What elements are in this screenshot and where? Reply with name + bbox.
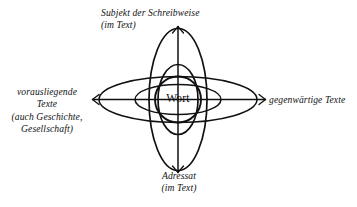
label-bottom-line2: (im Text) bbox=[144, 182, 214, 194]
label-vorausliegende-texte: vorausliegende Texte (auch Geschichte, G… bbox=[0, 86, 94, 135]
label-subjekt-der-schreibweise: Subjekt der Schreibweise (im Text) bbox=[101, 7, 200, 32]
label-right-line1: gegenwärtige Texte bbox=[269, 94, 345, 106]
label-left-line2: Texte bbox=[0, 98, 94, 110]
label-top-line1: Subjekt der Schreibweise bbox=[101, 7, 200, 19]
label-bottom-line1: Adressat bbox=[144, 170, 214, 182]
label-left-line3: (auch Geschichte, bbox=[0, 111, 94, 123]
diagram-canvas: Wort Subjekt der Schreibweise (im Text) … bbox=[0, 0, 357, 207]
label-left-line4: Gesellschaft) bbox=[0, 123, 94, 135]
label-top-line2: (im Text) bbox=[101, 19, 200, 31]
label-gegenwaertige-texte: gegenwärtige Texte bbox=[269, 94, 345, 106]
label-left-line1: vorausliegende bbox=[0, 86, 94, 98]
label-adressat: Adressat (im Text) bbox=[144, 170, 214, 195]
center-word-label: Wort bbox=[152, 92, 204, 104]
